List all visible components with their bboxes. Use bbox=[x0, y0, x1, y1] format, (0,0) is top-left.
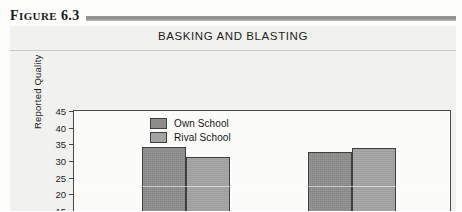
y-axis-tick-label: 15 bbox=[55, 206, 66, 212]
figure-header: FIGURE 6.3 bbox=[10, 8, 456, 28]
legend-item-rival-school: Rival School bbox=[150, 132, 231, 143]
bar-own-school bbox=[142, 147, 186, 211]
chart-legend: Own School Rival School bbox=[150, 118, 231, 143]
figure-page: FIGURE 6.3 BASKING AND BLASTING Reported… bbox=[0, 0, 462, 211]
y-axis-tick bbox=[69, 194, 74, 195]
y-axis-tick-label: 30 bbox=[55, 156, 66, 167]
y-axis-tick bbox=[69, 111, 74, 112]
legend-item-own-school: Own School bbox=[150, 118, 231, 129]
plot-inner bbox=[74, 111, 450, 211]
figure-label: FIGURE 6.3 bbox=[10, 8, 80, 24]
y-axis-tick bbox=[69, 128, 74, 129]
figure-label-prefix: F bbox=[10, 8, 19, 23]
figure-header-rule bbox=[86, 16, 456, 21]
bar-rival-school bbox=[352, 148, 396, 211]
y-axis-tick bbox=[69, 144, 74, 145]
bar-rival-school bbox=[186, 157, 230, 211]
y-axis-tick-label: 20 bbox=[55, 189, 66, 200]
figure-number: 6.3 bbox=[61, 8, 80, 23]
chart-title-band: BASKING AND BLASTING bbox=[10, 26, 456, 50]
y-axis-tick-label: 25 bbox=[55, 172, 66, 183]
y-axis-tick-label: 40 bbox=[55, 122, 66, 133]
y-axis-tick bbox=[69, 178, 74, 179]
plot-area: 454035302520151050 Own School Rival Scho… bbox=[73, 110, 451, 211]
legend-label-rival-school: Rival School bbox=[174, 132, 231, 143]
y-axis-tick bbox=[69, 161, 74, 162]
bar-own-school bbox=[308, 152, 352, 211]
legend-swatch-rival-school bbox=[150, 132, 167, 143]
y-axis-tick-label: 35 bbox=[55, 139, 66, 150]
legend-label-own-school: Own School bbox=[174, 118, 229, 129]
y-axis-tick-label: 45 bbox=[55, 106, 66, 117]
y-axis-title: Reported Quality bbox=[32, 9, 43, 129]
legend-swatch-own-school bbox=[150, 118, 167, 129]
chart-panel: Reported Quality 454035302520151050 Own … bbox=[10, 51, 456, 211]
chart-title: BASKING AND BLASTING bbox=[10, 30, 456, 42]
